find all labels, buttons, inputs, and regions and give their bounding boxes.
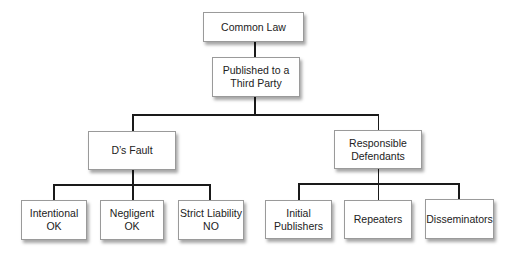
node-label: Negligent OK bbox=[110, 207, 154, 233]
node-label: Disseminators bbox=[426, 213, 493, 226]
node-initial-publishers: Initial Publishers bbox=[265, 200, 332, 239]
node-repeaters: Repeaters bbox=[344, 200, 412, 239]
node-label: Responsible Defendants bbox=[349, 137, 407, 163]
connector-published-down bbox=[254, 97, 256, 115]
node-responsible-defendants: Responsible Defendants bbox=[334, 130, 422, 169]
node-disseminators: Disseminators bbox=[425, 199, 494, 239]
node-published-to-third-party: Published to a Third Party bbox=[212, 57, 300, 97]
connector-responsible-down bbox=[378, 169, 380, 184]
node-label: Repeaters bbox=[354, 213, 402, 226]
connector-root-to-published bbox=[254, 42, 256, 57]
connector-to-repeaters bbox=[378, 183, 380, 200]
connector-level1-horizontal bbox=[132, 114, 379, 116]
node-label: Strict Liability NO bbox=[180, 207, 242, 233]
connector-ds-fault-down bbox=[132, 170, 134, 185]
node-ds-fault: D’s Fault bbox=[88, 131, 176, 170]
node-intentional: Intentional OK bbox=[21, 200, 87, 240]
connector-to-initial-publishers bbox=[298, 183, 300, 200]
connector-to-ds-fault bbox=[132, 114, 134, 131]
connector-to-disseminators bbox=[458, 183, 460, 199]
connector-to-intentional bbox=[53, 184, 55, 200]
node-strict-liability: Strict Liability NO bbox=[178, 200, 244, 240]
node-label: D’s Fault bbox=[111, 144, 152, 157]
connector-to-strict-liability bbox=[209, 184, 211, 200]
defamation-tree-diagram: Common Law Published to a Third Party D’… bbox=[0, 0, 518, 261]
connector-to-responsible-defendants bbox=[378, 114, 380, 130]
node-label: Published to a Third Party bbox=[223, 64, 290, 90]
node-label: Common Law bbox=[221, 21, 286, 34]
node-label: Intentional OK bbox=[30, 207, 78, 233]
node-negligent: Negligent OK bbox=[100, 200, 164, 240]
node-common-law: Common Law bbox=[203, 12, 304, 42]
node-label: Initial Publishers bbox=[274, 207, 323, 233]
connector-to-negligent bbox=[132, 184, 134, 200]
